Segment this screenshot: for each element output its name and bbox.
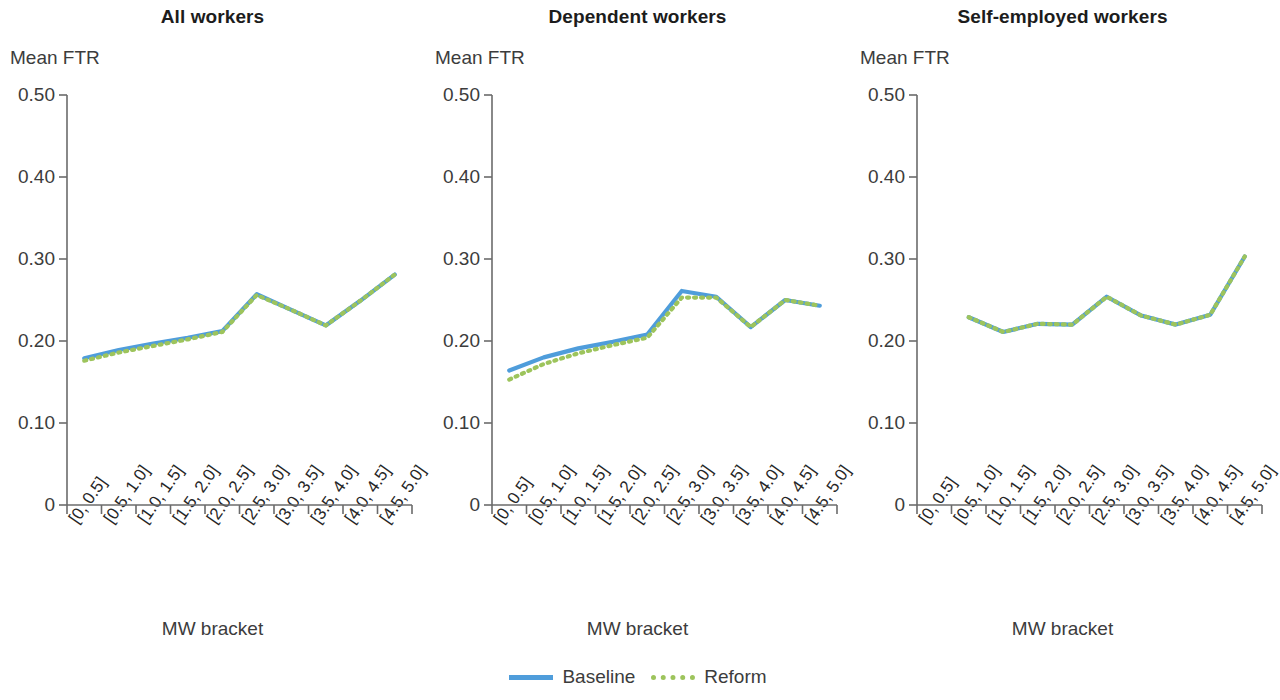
x-axis-label: MW bracket xyxy=(425,618,850,640)
series-line-reform xyxy=(969,257,1245,332)
plot-area xyxy=(425,0,850,560)
legend-swatch-reform-line xyxy=(651,675,695,680)
legend-item-baseline: Baseline xyxy=(509,666,635,688)
chart-panel-1: All workersMean FTRMW bracket0.500.400.3… xyxy=(0,0,425,660)
legend-item-reform: Reform xyxy=(651,666,766,688)
x-axis-label: MW bracket xyxy=(0,618,425,640)
legend-label-baseline: Baseline xyxy=(562,666,635,688)
x-axis-label: MW bracket xyxy=(850,618,1275,640)
series-line-baseline xyxy=(969,257,1245,332)
legend-swatch-baseline-line xyxy=(509,675,553,680)
chart-panel-3: Self-employed workersMean FTRMW bracket0… xyxy=(850,0,1275,660)
series-line-baseline xyxy=(84,275,395,359)
plot-area xyxy=(0,0,425,560)
plot-area xyxy=(850,0,1275,560)
legend-label-reform: Reform xyxy=(704,666,766,688)
chart-legend: Baseline Reform xyxy=(0,666,1276,688)
chart-panel-2: Dependent workersMean FTRMW bracket0.500… xyxy=(425,0,850,660)
